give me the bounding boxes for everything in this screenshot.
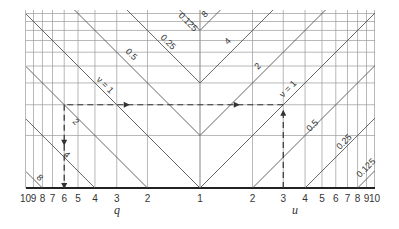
axis-ticks: 109876543212345678910 [20,193,381,204]
u-tick: 3 [280,193,286,204]
u-tick: 10 [369,193,381,204]
u-tick: 7 [345,193,351,204]
nomogram: 842ν = 10.50.250.125842ν = 10.50.250.125… [0,0,399,229]
arrow-left-icon [124,102,130,108]
q-axis-title: q [114,203,120,217]
u-axis-title: u [292,203,298,217]
nomogram-chart: 842ν = 10.50.250.125842ν = 10.50.250.125… [0,0,399,229]
q-tick: 9 [31,193,37,204]
u-tick: 8 [355,193,361,204]
left-curve [26,0,200,30]
arrow-left-icon [234,102,240,108]
center-tick: 1 [197,193,203,204]
right-curve-label: 0.25 [334,132,353,151]
left-curve-label: ν = 1 [95,74,116,95]
left-curve-label: 2 [71,116,82,127]
q-tick: 7 [50,193,56,204]
q-tick: 5 [75,193,81,204]
left-curve [26,0,200,135]
left-curve [26,67,147,188]
arrow-down-icon [61,140,67,146]
right-curve-label: 4 [222,36,233,47]
right-curve [200,0,375,30]
curve-labels: 842ν = 10.50.250.125842ν = 10.50.250.125 [35,9,378,183]
left-curve-label: 4 [62,149,73,160]
right-curve-label: 8 [199,9,210,20]
q-tick: 2 [145,193,151,204]
right-curve-label: 0.5 [304,117,320,133]
log-grid [26,10,376,188]
left-curve-label: 0.25 [159,32,178,51]
u-tick: 2 [250,193,256,204]
left-curve-label: 0.5 [124,46,140,62]
u-tick: 5 [319,193,325,204]
q-tick: 6 [61,193,67,204]
right-curve [200,0,375,135]
q-tick: 8 [40,193,46,204]
u-tick: 6 [333,193,339,204]
right-curve-label: ν = 1 [277,78,298,99]
example-path [61,102,283,188]
q-tick: 4 [92,193,98,204]
u-tick: 4 [302,193,308,204]
